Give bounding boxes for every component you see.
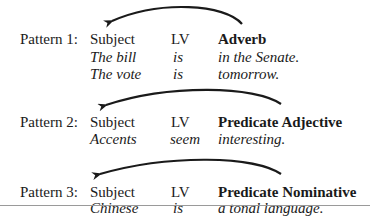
example-lv: seem [170, 132, 200, 147]
subject-header: Subject [90, 32, 135, 47]
example-complement: a tonal language. [218, 201, 323, 216]
example-complement: in the Senate. [218, 50, 299, 65]
example-subject: Chinese [90, 201, 138, 216]
lv-header: LV [171, 32, 190, 47]
curved-arrow-left-icon [106, 90, 281, 105]
subject-header: Subject [90, 185, 135, 200]
complement-header: Predicate Adjective [218, 115, 342, 130]
pattern-label: Pattern 3: [20, 185, 78, 200]
complement-header: Adverb [218, 32, 266, 47]
example-lv: is [173, 201, 183, 216]
pattern-label: Pattern 1: [20, 32, 78, 47]
curved-arrow-left-icon [100, 160, 281, 174]
complement-header: Predicate Nominative [218, 185, 356, 200]
subject-header: Subject [90, 115, 135, 130]
horizontal-rule [0, 205, 370, 206]
lv-header: LV [171, 185, 190, 200]
curved-arrow-left-icon [112, 7, 242, 24]
example-lv: is [173, 50, 183, 65]
example-complement: interesting. [218, 132, 285, 147]
example-subject: The vote [90, 67, 141, 82]
example-subject: Accents [90, 132, 137, 147]
pattern-label: Pattern 2: [20, 115, 78, 130]
example-complement: tomorrow. [218, 67, 279, 82]
lv-header: LV [171, 115, 190, 130]
example-lv: is [173, 67, 183, 82]
example-subject: The bill [90, 50, 136, 65]
